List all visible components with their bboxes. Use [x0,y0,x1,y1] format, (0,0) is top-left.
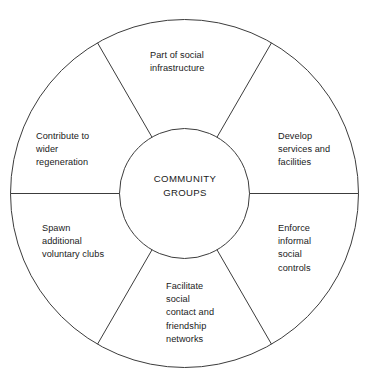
segment-label-enforce-informal-social-controls: Enforce informal social controls [278,222,364,275]
segment-label-contribute-to-wider-regeneration: Contribute to wider regeneration [36,130,146,170]
segment-label-part-of-social-infrastructure: Part of social infrastructure [150,49,260,75]
spoke-120deg [98,43,153,137]
hub-label-community-groups: COMMUNITY GROUPS [120,172,250,199]
segment-label-facilitate-social-contact-and-friendship-networks: Facilitate social contact and friendship… [166,280,266,346]
segment-label-develop-services-and-facilities: Develop services and facilities [278,130,364,170]
spoke-240deg [98,250,153,344]
wheel-diagram: COMMUNITY GROUPS Part of social infrastr… [0,0,374,392]
segment-label-spawn-additional-voluntary-clubs: Spawn additional voluntary clubs [42,222,152,262]
